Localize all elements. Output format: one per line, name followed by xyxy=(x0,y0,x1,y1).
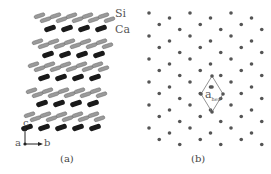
panel-a-side-view: Si Ca c a b (a) xyxy=(0,0,135,174)
axis-c-label: c xyxy=(23,118,29,128)
caption-a: (a) xyxy=(60,154,74,164)
hexagonal-lattice-diagram xyxy=(135,0,271,174)
si-legend-label: Si xyxy=(115,8,126,19)
caption-b: (b) xyxy=(191,154,205,164)
ca-legend-label: Ca xyxy=(115,24,130,35)
unit-cell-label: ahex xyxy=(205,89,221,102)
panel-b-top-view: ahex (b) xyxy=(135,0,271,174)
unit-cell-subscript: hex xyxy=(212,96,221,102)
axis-a-label: a xyxy=(15,138,21,148)
axis-b-label: b xyxy=(44,138,50,148)
